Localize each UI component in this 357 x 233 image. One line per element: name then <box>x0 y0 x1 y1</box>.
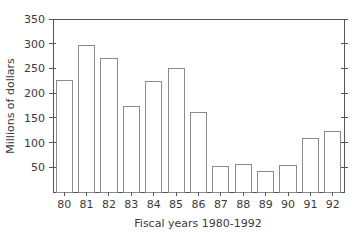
bar-89 <box>258 172 274 192</box>
bar-87 <box>213 167 229 192</box>
bar-80 <box>56 81 72 192</box>
y-axis-title: Millions of dollars <box>4 58 17 154</box>
x-tick-label: 85 <box>169 198 183 211</box>
bar-92 <box>325 132 341 192</box>
x-tick-label: 89 <box>259 198 273 211</box>
bar-82 <box>101 59 117 192</box>
x-tick-label: 82 <box>102 198 116 211</box>
x-axis-title: Fiscal years 1980-1992 <box>134 217 261 230</box>
x-tick-label: 92 <box>326 198 340 211</box>
x-tick-label: 81 <box>80 198 94 211</box>
y-tick-label: 150 <box>24 112 45 125</box>
bar-86 <box>190 112 206 192</box>
bar-84 <box>146 81 162 192</box>
x-tick-label: 90 <box>281 198 295 211</box>
bar-chart-figure: 50100150200250300350 8081828384858687888… <box>0 0 357 233</box>
x-tick-label: 86 <box>192 198 206 211</box>
x-tick-label: 88 <box>236 198 250 211</box>
y-tick-label: 250 <box>24 62 45 75</box>
y-tick-label: 50 <box>31 161 45 174</box>
bar-83 <box>123 107 139 192</box>
y-tick-label: 200 <box>24 87 45 100</box>
x-tick-label: 87 <box>214 198 228 211</box>
bar-81 <box>79 46 95 192</box>
x-tick-label: 91 <box>303 198 317 211</box>
bar-85 <box>168 69 184 192</box>
bar-90 <box>280 165 296 192</box>
bar-91 <box>302 138 318 192</box>
y-tick-label: 350 <box>24 13 45 26</box>
x-tick-label: 80 <box>57 198 71 211</box>
chart-canvas: 50100150200250300350 8081828384858687888… <box>0 0 357 233</box>
y-tick-label: 300 <box>24 38 45 51</box>
x-tick-label: 83 <box>124 198 138 211</box>
y-tick-label: 100 <box>24 137 45 150</box>
x-tick-label: 84 <box>147 198 161 211</box>
bar-88 <box>235 165 251 192</box>
